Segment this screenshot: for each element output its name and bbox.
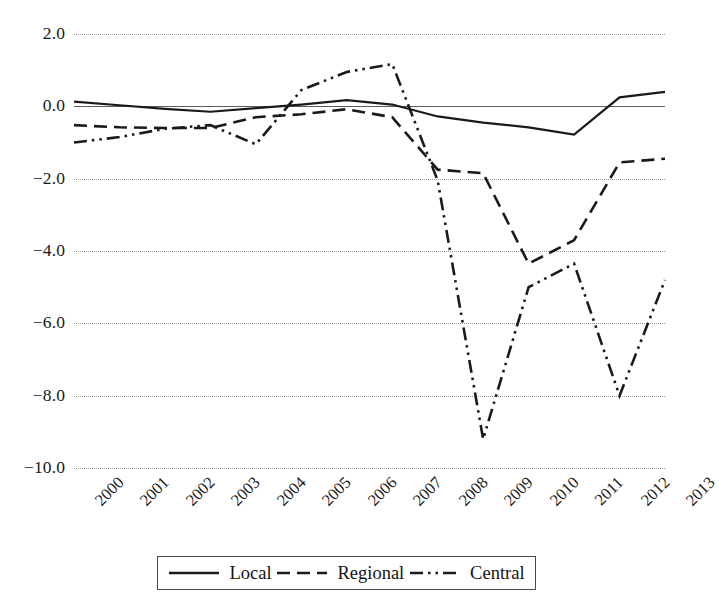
legend-label: Regional bbox=[337, 564, 404, 583]
x-axis-tick-label: 2000 bbox=[91, 473, 128, 510]
solid-line-swatch bbox=[168, 566, 220, 580]
x-axis-tick-label: 2009 bbox=[500, 473, 537, 510]
x-axis-tick-label: 2004 bbox=[273, 473, 310, 510]
x-axis-tick-label: 2001 bbox=[136, 473, 173, 510]
y-axis-tick-label: −4.0 bbox=[33, 240, 65, 261]
chart-legend: LocalRegionalCentral bbox=[157, 556, 536, 590]
gridline bbox=[74, 468, 665, 469]
legend-item-regional[interactable]: Regional bbox=[276, 564, 404, 583]
legend-item-local[interactable]: Local bbox=[168, 564, 271, 583]
x-axis-tick-label: 2005 bbox=[318, 473, 355, 510]
x-axis-tick-label: 2008 bbox=[455, 473, 492, 510]
x-axis-tick-label: 2006 bbox=[364, 473, 401, 510]
legend-label: Central bbox=[470, 564, 524, 583]
x-axis-tick-label: 2002 bbox=[182, 473, 219, 510]
x-axis-tick-label: 2011 bbox=[591, 473, 628, 510]
y-axis-tick-label: −6.0 bbox=[33, 312, 65, 333]
series-lines bbox=[74, 34, 665, 468]
plot-area: 2.00.0−2.0−4.0−6.0−8.0−10.0 bbox=[74, 34, 665, 468]
x-axis-tick-label: 2012 bbox=[636, 473, 673, 510]
dashed-line-swatch bbox=[276, 566, 328, 580]
legend-label: Local bbox=[229, 564, 271, 583]
x-axis-tick-label: 2003 bbox=[227, 473, 264, 510]
series-line-central bbox=[74, 64, 665, 439]
x-axis-tick-label: 2010 bbox=[545, 473, 582, 510]
x-axis-tick-labels: 2000200120022003200420052006200720082009… bbox=[74, 470, 665, 550]
y-axis-tick-label: −2.0 bbox=[33, 168, 65, 189]
y-axis-tick-label: −10.0 bbox=[24, 457, 65, 478]
y-axis-tick-label: 0.0 bbox=[43, 95, 65, 116]
y-axis-tick-label: 2.0 bbox=[43, 23, 65, 44]
dash-dot-dot-line-swatch bbox=[409, 566, 461, 580]
x-axis-tick-label: 2013 bbox=[682, 473, 719, 510]
x-axis-tick-label: 2007 bbox=[409, 473, 446, 510]
y-axis-tick-label: −8.0 bbox=[33, 385, 65, 406]
legend-item-central[interactable]: Central bbox=[409, 564, 524, 583]
